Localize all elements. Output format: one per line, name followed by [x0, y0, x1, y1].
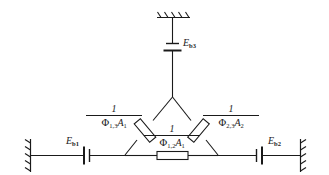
reluctance-r12-element: [157, 152, 188, 160]
reluctance-r13-denominator: Φ1,3A1: [86, 117, 142, 129]
reluctance-r23-numerator: 1: [203, 103, 259, 114]
source-label-eb3: Eb3: [183, 38, 196, 48]
wire-triangle-left-upper: [153, 97, 173, 121]
phi-subscript: 1,2: [167, 142, 175, 149]
reluctance-r23-denominator: Φ2,3A2: [203, 117, 259, 129]
reluctance-label-r13: 1 Φ1,3A1: [86, 103, 142, 129]
fraction-bar: [203, 115, 259, 116]
battery-eb1-icon: [84, 147, 90, 165]
wire-triangle-left-lower: [125, 140, 137, 155]
source-subscript-eb1: b1: [72, 140, 79, 147]
magnetic-circuit-figure: Eb3 Eb1 Eb2 1 Φ1,3A1 1 Φ2,3A2 1 Φ1,2A1: [0, 0, 329, 175]
source-subscript-eb3: b3: [189, 42, 196, 49]
area-subscript: 2: [241, 122, 244, 129]
battery-eb3-icon: [164, 44, 182, 51]
area-subscript: 1: [124, 122, 127, 129]
ground-top-icon: [157, 12, 190, 18]
ground-left-icon: [25, 139, 31, 172]
ground-right-icon: [301, 139, 307, 172]
reluctance-r12-numerator: 1: [144, 123, 200, 134]
reluctance-label-r23: 1 Φ2,3A2: [203, 103, 259, 129]
reluctance-r12-denominator: Φ1,2A1: [144, 137, 200, 149]
phi-subscript: 2,3: [226, 122, 234, 129]
reluctance-r13-numerator: 1: [86, 103, 142, 114]
wire-triangle-right-lower: [206, 140, 218, 155]
area-symbol: A: [234, 117, 240, 128]
phi-subscript: 1,3: [109, 122, 117, 129]
source-subscript-eb2: b2: [274, 140, 281, 147]
battery-eb2-icon: [257, 147, 263, 165]
fraction-bar: [144, 135, 200, 136]
area-subscript: 1: [182, 142, 185, 149]
wire-triangle-right-upper: [173, 97, 192, 121]
source-label-eb1: Eb1: [66, 136, 79, 146]
reluctance-label-r12: 1 Φ1,2A1: [144, 123, 200, 149]
source-label-eb2: Eb2: [268, 136, 281, 146]
area-symbol: A: [175, 137, 181, 148]
fraction-bar: [86, 115, 142, 116]
area-symbol: A: [117, 117, 123, 128]
circuit-schematic-canvas: [0, 0, 329, 175]
